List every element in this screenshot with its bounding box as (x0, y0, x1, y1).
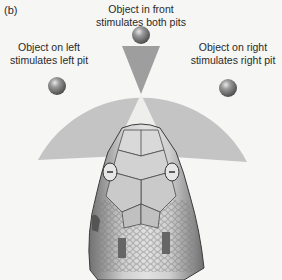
label-right-line1: Object on right (186, 41, 280, 54)
label-left-line1: Object on left (2, 41, 96, 54)
label-object-right: Object on right stimulates right pit (186, 41, 280, 67)
label-object-left: Object on left stimulates left pit (2, 41, 96, 67)
label-left-line2: stimulates left pit (2, 54, 96, 67)
label-front-line2: stimulates both pits (78, 16, 204, 29)
label-object-front: Object in front stimulates both pits (78, 3, 204, 29)
object-left-sphere (48, 77, 66, 95)
object-right-sphere (219, 79, 237, 97)
overlap-wedge (122, 46, 160, 94)
label-right-line2: stimulates right pit (186, 54, 280, 67)
pit-viper-diagram: (b) Object in front stimulates both pits… (0, 0, 282, 280)
panel-label: (b) (4, 4, 17, 17)
label-front-line1: Object in front (78, 3, 204, 16)
